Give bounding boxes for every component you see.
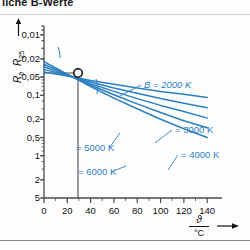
curve-label-b2000: B = 2000 K — [144, 79, 191, 90]
curve-label-b6000: = 6000 K — [78, 166, 116, 177]
curve-label-b3000: = 3000 K — [175, 124, 213, 135]
x-axis-numerator: ϑ — [196, 215, 202, 225]
leader-line-b3000 — [155, 130, 172, 143]
leader-line-b4000 — [168, 155, 178, 170]
left-fan-arc — [58, 47, 60, 58]
x-axis-fraction: ϑ °C — [186, 215, 212, 238]
x-axis-ticks — [44, 198, 207, 203]
curve-label-b4000: = 4000 K — [181, 149, 219, 160]
chart-figure: liche B-Werte Rϑ R25 — [0, 0, 250, 250]
x-axis-label: ϑ °C — [186, 212, 248, 240]
x-tick-label: 60 — [102, 205, 126, 216]
y-tick-label: 5 — [0, 192, 40, 203]
y-tick-label: 0,05 — [0, 71, 40, 82]
x-axis-fraction-bar — [189, 226, 209, 227]
x-tick-label: 0 — [32, 205, 56, 216]
x-axis-arrow-icon — [217, 222, 239, 230]
x-tick-label: 80 — [125, 205, 149, 216]
y-tick-label: 0,02 — [0, 53, 40, 64]
curve-5000 — [44, 64, 207, 128]
y-tick-label: 0,5 — [0, 132, 40, 143]
x-tick-label: 20 — [55, 205, 79, 216]
y-tick-label: 0,1 — [0, 89, 40, 100]
y-tick-label: 0,01 — [0, 29, 40, 40]
x-axis-denominator: °C — [194, 228, 204, 238]
x-tick-label: 40 — [79, 205, 103, 216]
y-tick-label: 1 — [0, 150, 40, 161]
x-tick-label: 100 — [149, 205, 173, 216]
y-tick-label: 2 — [0, 174, 40, 185]
reference-point-marker — [74, 69, 82, 77]
y-tick-label: 0,2 — [0, 113, 40, 124]
curve-label-b5000: = 5000 K — [76, 142, 114, 153]
